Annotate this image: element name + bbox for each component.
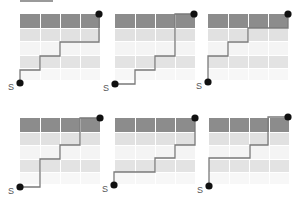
grid-cell <box>270 118 289 132</box>
grid-cell <box>41 69 60 80</box>
grid-cell <box>41 146 60 159</box>
panel-6: S <box>197 113 292 195</box>
grid-cell <box>41 118 60 132</box>
grid-cell <box>156 146 175 159</box>
grid-cell <box>156 118 175 132</box>
grid-cell <box>41 160 60 172</box>
grid-cell <box>20 14 40 28</box>
grid-cell <box>209 160 229 172</box>
grid-cell <box>81 42 100 55</box>
grid-cell <box>41 14 60 28</box>
grid-cell <box>20 160 40 172</box>
grid-cell <box>269 29 288 41</box>
start-label: S <box>8 82 14 92</box>
grid-cell <box>209 118 229 132</box>
grid-cell <box>115 160 135 172</box>
grid-cell <box>249 14 268 28</box>
grid-cell <box>136 29 155 41</box>
grid-cell <box>136 14 155 28</box>
grid-cell <box>229 14 248 28</box>
panel-4: S <box>8 114 104 196</box>
grid-cell <box>41 56 60 68</box>
grid-cell <box>61 146 80 159</box>
grid-cell <box>230 146 249 159</box>
grid-cell <box>156 56 175 68</box>
grid-cell <box>115 146 135 159</box>
start-label: S <box>196 81 202 91</box>
grid-cell <box>156 173 175 184</box>
start-dot <box>111 80 118 87</box>
grid-cell <box>81 29 100 41</box>
grid-cell <box>176 56 195 68</box>
grid-cell <box>270 173 289 184</box>
grid-cell <box>61 42 80 55</box>
grid-cell <box>208 69 228 80</box>
panel-3: S <box>196 10 292 91</box>
grid-cell <box>136 56 155 68</box>
grid-cell <box>156 69 175 80</box>
panel-1: S <box>8 10 103 92</box>
grid-cell <box>41 42 60 55</box>
grid-cell <box>61 118 80 132</box>
grid-cell <box>61 69 80 80</box>
grid-cell <box>250 173 269 184</box>
grid-cell <box>156 29 175 41</box>
grid-cell <box>156 42 175 55</box>
start-label: S <box>103 83 109 93</box>
grid-cell <box>208 42 228 55</box>
grid-cell <box>230 160 249 172</box>
start-dot <box>205 182 212 189</box>
grid-cell <box>20 118 40 132</box>
grid-cell <box>61 133 80 145</box>
end-dot <box>96 114 103 121</box>
grid-cell <box>176 146 195 159</box>
grid-cell <box>115 56 135 68</box>
start-label: S <box>102 184 108 194</box>
grid-cell <box>270 133 289 145</box>
end-dot <box>284 113 291 120</box>
grid-cell <box>208 14 228 28</box>
grid-cell <box>115 133 135 145</box>
grid-cell <box>176 133 195 145</box>
grid-cell <box>269 56 288 68</box>
grid-cell <box>230 118 249 132</box>
grid-cell <box>269 69 288 80</box>
grid-cell <box>81 146 100 159</box>
grid-cell <box>230 173 249 184</box>
grid-cell <box>229 69 248 80</box>
grid-cell <box>115 14 135 28</box>
grid-cell <box>81 160 100 172</box>
grid-cell <box>115 69 135 80</box>
grid-cell <box>176 173 195 184</box>
grid-cell <box>41 173 60 184</box>
grid-cell <box>61 160 80 172</box>
grid-cell <box>41 133 60 145</box>
grid-cell <box>20 133 40 145</box>
grid-cell <box>250 146 269 159</box>
start-dot <box>16 183 23 190</box>
grid-cell <box>136 160 155 172</box>
grid-cell <box>156 14 175 28</box>
grid-cell <box>61 56 80 68</box>
grid-cell <box>115 42 135 55</box>
grid-cell <box>20 42 40 55</box>
grid-cell <box>249 69 268 80</box>
grid-cell <box>20 29 40 41</box>
grid-cell <box>156 160 175 172</box>
grid-cell <box>81 133 100 145</box>
grid-cell <box>249 56 268 68</box>
end-dot <box>284 10 291 17</box>
grid-cell <box>41 29 60 41</box>
grid-cell <box>229 56 248 68</box>
grid-cell <box>61 173 80 184</box>
end-dot <box>191 114 198 121</box>
panels-group: SSSSSS <box>8 10 292 196</box>
grid-cell <box>20 56 40 68</box>
grid-cell <box>20 146 40 159</box>
grid-cell <box>176 29 195 41</box>
grid-cell <box>136 42 155 55</box>
grid-cell <box>230 133 249 145</box>
grid-cell <box>249 29 268 41</box>
grid-cell <box>209 173 229 184</box>
grid-cell <box>209 133 229 145</box>
